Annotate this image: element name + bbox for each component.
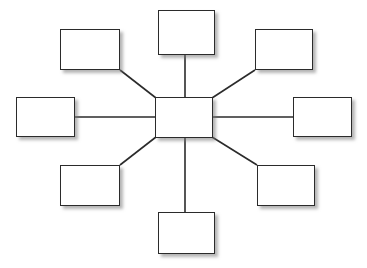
connector-hub-top-left (120, 70, 156, 98)
node-top-left-label (88, 48, 92, 52)
node-top-right-label (282, 48, 286, 52)
node-top-right[interactable] (255, 29, 313, 70)
connector-hub-bottom-right (212, 137, 257, 165)
node-middle-left[interactable] (16, 97, 75, 137)
node-top-center-label (185, 31, 189, 35)
hub-node-label (182, 116, 186, 120)
node-middle-left-label (44, 115, 48, 119)
connector-hub-bottom-left (120, 137, 156, 165)
node-middle-right-label (321, 115, 325, 119)
hub-node[interactable] (155, 97, 213, 138)
node-middle-right[interactable] (293, 97, 352, 137)
diagram-canvas (0, 0, 367, 268)
node-bottom-right[interactable] (257, 165, 315, 206)
node-bottom-left-label (88, 184, 92, 188)
connector-hub-top-right (212, 70, 255, 98)
node-bottom-center-label (185, 231, 189, 235)
node-top-left[interactable] (60, 29, 120, 70)
node-bottom-left[interactable] (60, 165, 120, 206)
node-top-center[interactable] (158, 10, 215, 55)
node-bottom-center[interactable] (158, 212, 215, 254)
node-bottom-right-label (284, 184, 288, 188)
